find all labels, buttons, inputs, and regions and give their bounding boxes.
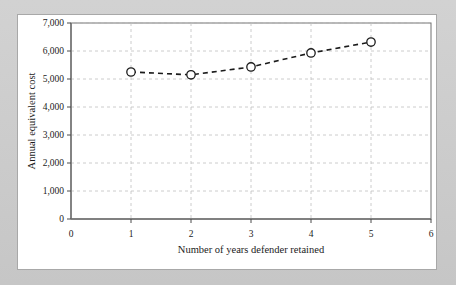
y-tick-label: 4,000 <box>43 102 65 112</box>
plot-area: 01,0002,0003,0004,0005,0006,0007,000 012… <box>18 15 438 271</box>
x-tick-label: 1 <box>129 229 134 239</box>
x-axis-tick-labels: 0123456 <box>69 229 434 239</box>
y-tick-label: 3,000 <box>43 130 65 140</box>
y-tick-label: 7,000 <box>43 18 65 28</box>
chart-card: 01,0002,0003,0004,0005,0006,0007,000 012… <box>17 14 437 270</box>
data-point-marker <box>187 71 195 79</box>
y-tick-label: 2,000 <box>43 158 65 168</box>
x-tick-label: 6 <box>429 229 434 239</box>
x-axis-title: Number of years defender retained <box>178 244 325 255</box>
y-axis-title: Annual equivalent cost <box>26 73 37 170</box>
y-tick-label: 6,000 <box>43 46 65 56</box>
figure-root: 01,0002,0003,0004,0005,0006,0007,000 012… <box>0 0 456 285</box>
data-point-marker <box>127 68 135 76</box>
line-chart: 01,0002,0003,0004,0005,0006,0007,000 012… <box>18 15 438 271</box>
y-tick-label: 0 <box>59 214 64 224</box>
data-point-marker <box>247 63 255 71</box>
x-tick-label: 4 <box>309 229 314 239</box>
data-point-marker <box>367 38 375 46</box>
data-point-marker <box>307 49 315 57</box>
x-tick-label: 5 <box>369 229 374 239</box>
x-tick-label: 2 <box>189 229 194 239</box>
x-tick-label: 3 <box>249 229 254 239</box>
x-tick-label: 0 <box>69 229 74 239</box>
y-tick-label: 1,000 <box>43 186 65 196</box>
y-tick-label: 5,000 <box>43 74 65 84</box>
y-axis-tick-labels: 01,0002,0003,0004,0005,0006,0007,000 <box>43 18 65 224</box>
